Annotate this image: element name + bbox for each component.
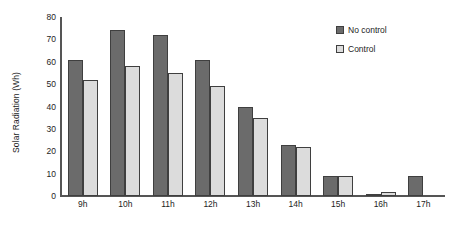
legend-label: Control xyxy=(348,44,375,54)
x-axis-tick-labels: 9h10h11h12h13h14h15h16h17h xyxy=(62,199,445,209)
y-axis-tick-label: 50 xyxy=(47,79,56,89)
x-axis-tick-label: 14h xyxy=(274,199,317,209)
bar[interactable] xyxy=(153,35,168,196)
y-axis-tick-labels: 01020304050607080 xyxy=(30,17,56,196)
legend-label: No control xyxy=(348,25,387,35)
bar[interactable] xyxy=(408,176,423,196)
legend: No controlControl xyxy=(336,25,387,54)
bar[interactable] xyxy=(210,86,225,196)
bar[interactable] xyxy=(253,118,268,196)
y-axis-tick-label: 10 xyxy=(47,169,56,179)
bar-group xyxy=(147,17,190,196)
bar[interactable] xyxy=(296,147,311,196)
bar-group xyxy=(189,17,232,196)
bar-group xyxy=(104,17,147,196)
x-axis-tick-label: 15h xyxy=(317,199,360,209)
bar-chart: Solar Radiation (Wh) 01020304050607080 9… xyxy=(0,0,461,225)
x-axis-tick-label: 12h xyxy=(189,199,232,209)
bar-groups xyxy=(62,17,445,196)
y-axis-title: Solar Radiation (Wh) xyxy=(6,0,26,225)
y-axis-tick-label: 60 xyxy=(47,57,56,67)
bar[interactable] xyxy=(83,80,98,196)
y-axis-tick-label: 20 xyxy=(47,146,56,156)
bar[interactable] xyxy=(281,145,296,196)
legend-swatch-icon xyxy=(336,45,344,53)
legend-item[interactable]: Control xyxy=(336,44,387,54)
y-axis-tick-label: 40 xyxy=(47,102,56,112)
y-axis-tick-label: 30 xyxy=(47,124,56,134)
legend-item[interactable]: No control xyxy=(336,25,387,35)
bar-group xyxy=(62,17,105,196)
bar[interactable] xyxy=(323,176,338,196)
y-axis-tick-label: 0 xyxy=(51,191,56,201)
x-axis-tick-label: 9h xyxy=(62,199,105,209)
y-axis-tick-label: 70 xyxy=(47,34,56,44)
y-axis-tick-label: 80 xyxy=(47,12,56,22)
bar[interactable] xyxy=(381,192,396,196)
bar[interactable] xyxy=(110,30,125,196)
x-axis-tick-label: 13h xyxy=(232,199,275,209)
bar[interactable] xyxy=(366,194,381,196)
x-axis-tick-label: 17h xyxy=(402,199,445,209)
bar[interactable] xyxy=(125,66,140,196)
x-axis-tick-label: 10h xyxy=(104,199,147,209)
bar[interactable] xyxy=(338,176,353,196)
legend-swatch-icon xyxy=(336,26,344,34)
bar-group xyxy=(402,17,445,196)
bar-group xyxy=(232,17,275,196)
bar[interactable] xyxy=(195,60,210,196)
x-axis-tick-label: 11h xyxy=(147,199,190,209)
bar[interactable] xyxy=(238,107,253,197)
bar[interactable] xyxy=(168,73,183,196)
x-axis-tick-label: 16h xyxy=(359,199,402,209)
bar-group xyxy=(274,17,317,196)
bar[interactable] xyxy=(68,60,83,196)
